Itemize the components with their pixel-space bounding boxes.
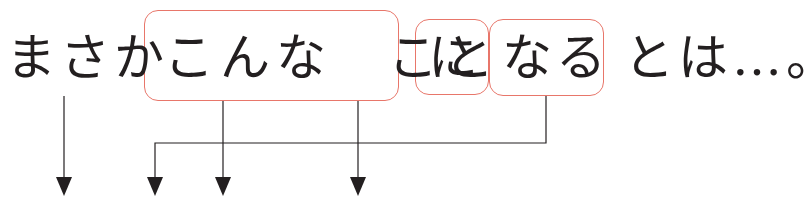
- arrowhead-2: [147, 177, 163, 196]
- arrowhead-1: [56, 177, 72, 196]
- arrowhead-4: [350, 177, 366, 196]
- arrowhead-3: [215, 177, 231, 196]
